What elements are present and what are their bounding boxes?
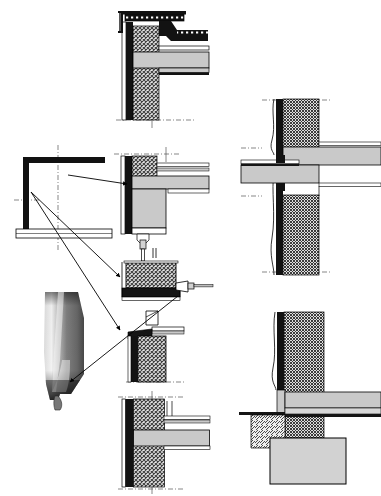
pier-render (128, 336, 131, 382)
sill-bedding (152, 331, 184, 334)
external-ground-membrane (239, 412, 285, 415)
concrete-floor-slab (132, 176, 209, 189)
balcony-finish (241, 160, 299, 164)
key-roof-slab (23, 157, 105, 163)
detail-sheet (0, 0, 381, 496)
upper-screed (164, 420, 210, 423)
coping-membrane (125, 14, 184, 21)
masonry-wall-section (132, 156, 157, 178)
window-head-box (132, 189, 166, 228)
masonry-wall-lower (283, 195, 319, 275)
roof-membrane (177, 30, 208, 35)
soffit-insulation (159, 73, 209, 76)
insulation-layer (126, 399, 134, 487)
external-render-layer (122, 22, 126, 120)
concrete-floor-slab (134, 430, 210, 446)
coping-cap (123, 11, 186, 15)
external-render-layer (122, 399, 126, 487)
steel-bracket (176, 281, 188, 292)
masonry-block (126, 262, 176, 288)
thermal-break-upper (276, 155, 285, 163)
rod-collar (140, 240, 146, 249)
bearing-plate-insulation (122, 288, 180, 297)
upper-lining (164, 416, 210, 420)
thermal-break-lower (276, 183, 285, 191)
slab-screed (157, 168, 209, 171)
masonry-wall-section (133, 26, 159, 120)
block-cap-plate (124, 261, 178, 263)
masonry-pier (138, 336, 166, 382)
bracket-nut (188, 283, 194, 289)
slab-soffit-line (168, 189, 209, 193)
insulation-layer (126, 22, 133, 120)
suspension-rod (142, 249, 145, 261)
slab-underlay (285, 408, 381, 414)
slab-topping (159, 46, 209, 50)
anchor-bar (194, 285, 213, 287)
ground-floor-slab (285, 392, 381, 408)
balcony-slab (241, 165, 319, 183)
soffit-lining (319, 183, 381, 187)
internal-floor-topping (319, 142, 381, 146)
bearing-plate (122, 297, 180, 301)
head-closure-plate (132, 228, 166, 234)
slab-topping (157, 163, 209, 167)
pier-insulation (131, 336, 138, 382)
detail-sheet-canvas (0, 0, 381, 496)
strip-footing (270, 438, 346, 484)
wall-insulation-upper (276, 99, 283, 155)
key-wall (23, 157, 29, 229)
masonry-wall-section (284, 312, 324, 438)
slab-soffit-lining (159, 68, 209, 73)
concrete-floor-slab (133, 52, 209, 68)
wall-insulation (277, 312, 284, 390)
external-render-layer (121, 156, 125, 234)
slab-soffit-lining (164, 446, 210, 450)
slab-damp-membrane (285, 414, 381, 417)
insulation-layer (125, 156, 132, 234)
balcony-waterproofing (241, 164, 299, 167)
sill-flashing (152, 327, 184, 331)
